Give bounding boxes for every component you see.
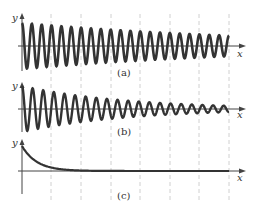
panel-a: y x (a) (11, 12, 246, 78)
panel-a-y-label: y (11, 12, 18, 23)
panel-c-curve (22, 146, 229, 171)
panel-a-caption: (a) (117, 67, 131, 78)
panel-c: y x (c) (11, 137, 246, 201)
panel-b-y-label: y (11, 80, 18, 91)
damped-oscillation-figure: y x (a) y x (b) y x (c) (0, 0, 258, 211)
panel-b-caption: (b) (117, 126, 131, 137)
panel-b: y x (b) (11, 80, 246, 137)
panel-a-y-arrow-icon (20, 13, 25, 19)
panel-b-x-label: x (237, 109, 243, 120)
panel-c-x-label: x (237, 172, 243, 183)
panel-c-y-arrow-icon (20, 139, 25, 145)
panel-a-x-label: x (237, 48, 243, 59)
panel-c-y-label: y (11, 137, 18, 148)
panel-b-curve (22, 86, 229, 131)
panel-c-caption: (c) (117, 190, 131, 201)
